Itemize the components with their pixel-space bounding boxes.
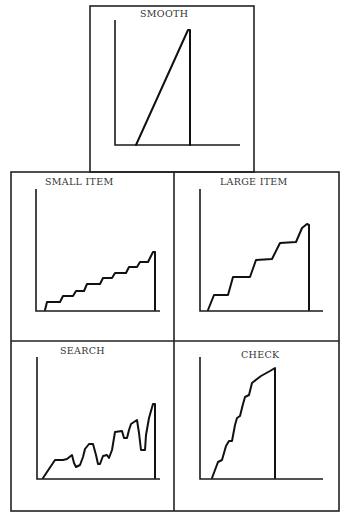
axes	[36, 189, 160, 311]
panel-title: SMOOTH	[140, 8, 188, 19]
chart-line	[136, 30, 190, 145]
panel-title: SEARCH	[60, 345, 105, 356]
panel-search: SEARCH	[37, 345, 160, 479]
axes	[115, 20, 240, 145]
diagram-canvas: SMOOTH SMALL ITEM LARGE ITEM SEARCH CHEC…	[0, 0, 346, 524]
panel-title: LARGE ITEM	[220, 176, 288, 187]
axes	[200, 189, 323, 311]
chart-line	[45, 252, 155, 310]
panel-title: CHECK	[241, 349, 280, 360]
panel-check: CHECK	[200, 349, 323, 479]
panel-title: SMALL ITEM	[45, 176, 113, 187]
panel-large-item: LARGE ITEM	[200, 176, 323, 311]
chart-line	[208, 224, 309, 310]
panel-smooth: SMOOTH	[115, 8, 240, 145]
panel-small-item: SMALL ITEM	[36, 176, 160, 311]
chart-line	[212, 368, 275, 478]
chart-line	[43, 404, 155, 478]
